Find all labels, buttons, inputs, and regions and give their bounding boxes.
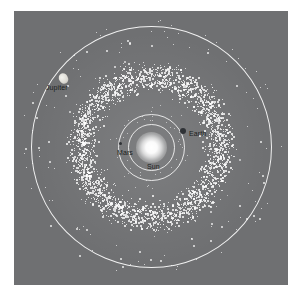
label-sun: Sun — [147, 163, 160, 170]
mars-planet-icon — [119, 142, 122, 145]
sun-glow-icon — [136, 132, 167, 163]
illustration-panel: Jupiter Earth Mars Sun — [14, 11, 288, 285]
earth-planet-icon — [180, 128, 186, 134]
asteroid-belt-figure: Jupiter Earth Mars Sun — [0, 0, 301, 299]
label-earth: Earth — [189, 130, 206, 137]
label-jupiter: Jupiter — [46, 84, 68, 91]
label-mars: Mars — [117, 149, 133, 156]
